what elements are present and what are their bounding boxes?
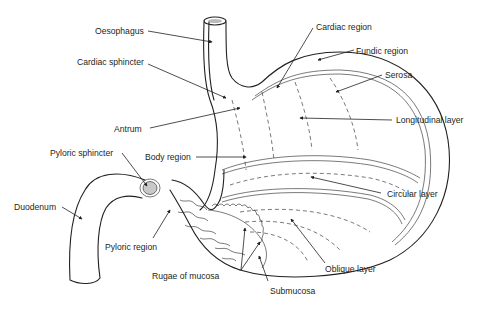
label-serosa: Serosa — [385, 70, 412, 80]
label-cardiac-sphincter: Cardiac sphincter — [77, 57, 144, 67]
stomach-layers — [208, 70, 431, 268]
label-pyloric-sphincter: Pyloric sphincter — [50, 148, 113, 158]
label-pyloric-region: Pyloric region — [105, 242, 157, 252]
label-longitudinal-layer: Longitudinal layer — [396, 115, 464, 125]
label-body-region: Body region — [145, 152, 191, 162]
stomach-anatomy-diagram: Oesophagus Cardiac sphincter Antrum Pylo… — [0, 0, 480, 309]
label-submucosa: Submucosa — [270, 286, 316, 296]
label-circular-layer: Circular layer — [387, 189, 438, 199]
duodenum — [70, 174, 145, 284]
label-oesophagus: Oesophagus — [95, 26, 144, 36]
label-duodenum: Duodenum — [14, 202, 56, 212]
label-oblique-layer: Oblique layer — [325, 264, 376, 274]
pyloric-sphincter — [140, 179, 160, 197]
label-fundic-region: Fundic region — [356, 46, 408, 56]
label-rugae-of-mucosa: Rugae of mucosa — [152, 271, 220, 281]
label-cardiac-region: Cardiac region — [316, 22, 372, 32]
labels: Oesophagus Cardiac sphincter Antrum Pylo… — [14, 22, 464, 296]
label-antrum: Antrum — [114, 124, 142, 134]
